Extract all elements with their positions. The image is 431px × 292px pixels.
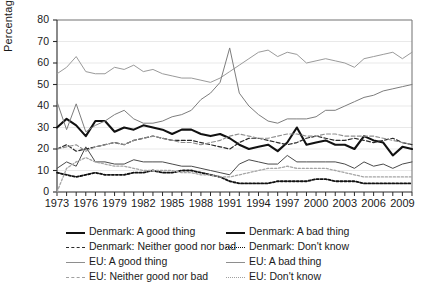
legend-label: Denmark: Don't know (249, 241, 349, 252)
y-tick-label: 0 (23, 185, 49, 197)
y-tick-label: 70 (23, 35, 49, 47)
y-tick-label: 60 (23, 56, 49, 68)
y-tick-label: 80 (23, 13, 49, 25)
legend-item: EU: Don't know (226, 271, 426, 282)
series-line (57, 50, 412, 82)
y-tick-label: 30 (23, 121, 49, 133)
legend-swatch (66, 257, 85, 266)
y-tick-label: 20 (23, 142, 49, 154)
legend-swatch (226, 227, 245, 236)
legend-swatch (226, 272, 245, 281)
legend-label: EU: A bad thing (249, 256, 321, 267)
chart-legend: Denmark: A good thingDenmark: A bad thin… (66, 224, 426, 284)
legend-swatch (66, 272, 85, 281)
legend-label: Denmark: A good thing (89, 226, 195, 237)
legend-item: EU: A bad thing (226, 256, 426, 267)
legend-item: Denmark: A good thing (66, 226, 226, 237)
y-tick-label: 40 (23, 99, 49, 111)
y-tick-label: 50 (23, 78, 49, 90)
legend-swatch (66, 227, 85, 236)
legend-label: EU: Don't know (249, 271, 321, 282)
series-line (57, 171, 412, 184)
legend-item: Denmark: Neither good nor bad (66, 241, 226, 252)
legend-item: EU: A good thing (66, 256, 226, 267)
series-line (57, 48, 412, 132)
legend-item: EU: Neither good nor bad (66, 271, 226, 282)
legend-label: EU: A good thing (89, 256, 167, 267)
legend-swatch (226, 257, 245, 266)
legend-item: Denmark: Don't know (226, 241, 426, 252)
legend-swatch (226, 242, 245, 251)
series-line (57, 119, 412, 156)
legend-item: Denmark: A bad thing (226, 226, 426, 237)
x-tick-label: 2009 (385, 197, 419, 209)
legend-label: Denmark: Neither good nor bad (89, 241, 236, 252)
legend-label: EU: Neither good nor bad (89, 271, 208, 282)
legend-label: Denmark: A bad thing (249, 226, 349, 237)
line-chart: Percentage 01020304050607080 19731976197… (0, 0, 431, 292)
legend-swatch (66, 242, 85, 251)
y-tick-label: 10 (23, 164, 49, 176)
